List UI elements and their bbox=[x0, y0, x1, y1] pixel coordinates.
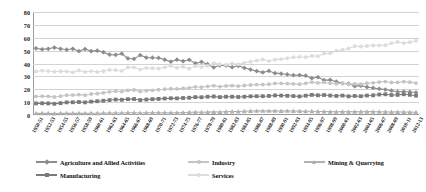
data-point bbox=[242, 95, 246, 99]
legend-label: Mining & Quarrying bbox=[328, 159, 384, 166]
data-point bbox=[390, 93, 394, 97]
data-point bbox=[168, 59, 173, 64]
data-point bbox=[236, 95, 240, 99]
data-point bbox=[328, 94, 332, 98]
data-point bbox=[187, 96, 191, 100]
data-point bbox=[89, 69, 93, 73]
data-point bbox=[89, 49, 94, 54]
legend-agriculture[interactable]: Agriculture and Allied Activities bbox=[36, 158, 145, 166]
x-tick-label: 1988-89 bbox=[263, 116, 277, 134]
data-point bbox=[206, 64, 210, 68]
y-tick-label-70: 70 bbox=[24, 21, 30, 28]
data-point bbox=[206, 84, 210, 88]
data-point bbox=[261, 57, 265, 61]
data-point bbox=[46, 102, 50, 106]
data-point bbox=[151, 97, 155, 101]
x-tick-label: 1952-53 bbox=[43, 116, 57, 134]
data-point bbox=[34, 102, 38, 106]
x-tick-label: 2002-03 bbox=[349, 116, 363, 134]
data-point bbox=[120, 90, 124, 94]
data-point bbox=[65, 100, 69, 104]
data-point bbox=[297, 73, 302, 78]
x-tick-label: 1984-85 bbox=[239, 116, 253, 134]
data-point bbox=[218, 95, 222, 99]
data-point bbox=[58, 46, 63, 51]
data-point bbox=[95, 70, 99, 74]
data-point bbox=[138, 90, 142, 94]
data-point bbox=[59, 69, 63, 73]
data-point bbox=[316, 54, 320, 58]
data-point bbox=[71, 100, 75, 104]
data-point bbox=[347, 82, 351, 86]
data-point bbox=[83, 93, 87, 97]
data-point bbox=[402, 41, 406, 45]
data-point bbox=[273, 82, 277, 86]
data-point bbox=[95, 48, 100, 53]
y-axis: 01020304050607080 bbox=[0, 12, 33, 115]
legend-manufacturing[interactable]: Manufacturing bbox=[36, 171, 100, 179]
data-point bbox=[292, 94, 296, 98]
x-tick-label: 1980-81 bbox=[214, 116, 228, 134]
data-point bbox=[65, 93, 69, 97]
data-point bbox=[267, 94, 271, 98]
data-point bbox=[52, 45, 57, 50]
y-tick-label-40: 40 bbox=[24, 60, 30, 67]
data-point bbox=[261, 94, 265, 98]
data-point bbox=[322, 81, 326, 85]
data-point bbox=[371, 86, 376, 91]
data-point bbox=[77, 69, 81, 73]
data-point bbox=[261, 83, 265, 87]
data-point bbox=[414, 94, 418, 98]
data-point bbox=[377, 86, 382, 91]
data-point bbox=[181, 96, 185, 100]
data-point bbox=[156, 56, 161, 61]
x-tick-label: 1970-71 bbox=[153, 116, 167, 134]
data-point bbox=[236, 63, 240, 67]
data-point bbox=[132, 88, 136, 92]
data-point bbox=[383, 92, 387, 96]
data-point bbox=[365, 94, 369, 98]
data-point bbox=[292, 55, 296, 59]
data-point bbox=[353, 44, 357, 48]
data-point bbox=[144, 55, 149, 60]
data-point bbox=[40, 101, 44, 105]
data-point bbox=[347, 47, 351, 51]
legend-key-icon bbox=[188, 158, 209, 166]
data-point bbox=[101, 50, 106, 55]
data-point bbox=[249, 83, 253, 87]
data-point bbox=[242, 84, 246, 88]
data-point bbox=[200, 85, 204, 89]
data-point bbox=[310, 80, 314, 84]
data-point bbox=[102, 69, 106, 73]
data-point bbox=[334, 82, 338, 86]
data-point bbox=[304, 81, 308, 85]
data-point bbox=[267, 82, 271, 86]
data-point bbox=[365, 81, 369, 85]
data-point bbox=[359, 94, 363, 98]
data-point bbox=[46, 94, 50, 98]
data-point bbox=[163, 65, 167, 69]
data-point bbox=[187, 67, 191, 71]
data-point bbox=[108, 68, 112, 72]
data-point bbox=[255, 83, 259, 87]
data-point bbox=[402, 92, 406, 96]
legend-industry[interactable]: Industry bbox=[188, 158, 235, 166]
data-point bbox=[383, 80, 387, 84]
data-point bbox=[113, 52, 118, 57]
data-point bbox=[114, 98, 118, 102]
legend-services[interactable]: Services bbox=[188, 171, 234, 179]
data-point bbox=[193, 64, 197, 68]
data-point bbox=[64, 47, 69, 52]
legend-mining[interactable]: Mining & Quarrying bbox=[304, 158, 384, 166]
data-point bbox=[70, 46, 75, 51]
data-point bbox=[267, 59, 271, 63]
data-point bbox=[285, 82, 289, 86]
data-point bbox=[347, 94, 351, 98]
data-point bbox=[218, 85, 222, 89]
data-point bbox=[230, 61, 234, 65]
x-tick-label: 1996-97 bbox=[312, 116, 326, 134]
data-point bbox=[144, 98, 148, 102]
data-point bbox=[303, 73, 308, 78]
data-point bbox=[414, 81, 418, 85]
data-point bbox=[224, 84, 228, 88]
